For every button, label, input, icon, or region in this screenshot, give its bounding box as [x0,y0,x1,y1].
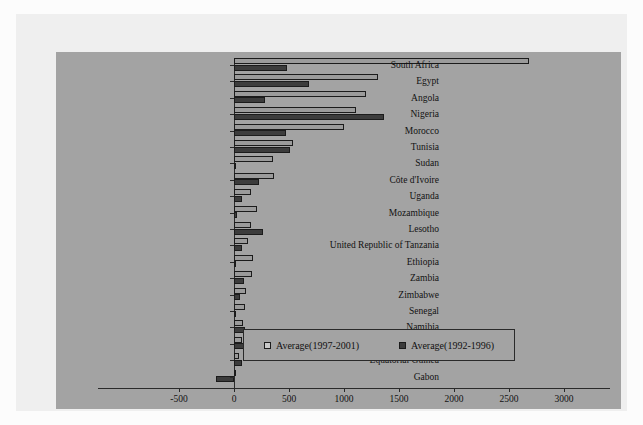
bar-series1 [234,124,344,130]
category-label: Gabon [414,372,439,382]
x-axis-tick [289,388,290,392]
x-axis-tick [399,388,400,392]
y-axis-tick [230,147,234,148]
chart-legend: Average(1997-2001) Average(1992-1996) [243,329,515,361]
bar-series1 [234,353,239,359]
plot-area: South AfricaEgyptAngolaNigeriaMoroccoTun… [56,52,621,409]
category-label: Senegal [409,306,439,316]
x-axis-tick [234,388,235,392]
legend-item-average-1992-1996: Average(1992-1996) [399,340,494,351]
bar-series1 [234,288,246,294]
category-label: Zambia [410,273,439,283]
bar-series1 [234,370,236,376]
y-axis-tick [230,229,234,230]
legend-label-2: Average(1992-1996) [411,340,494,351]
category-label: Lesotho [408,224,439,234]
y-axis-tick [230,65,234,66]
bar-series2 [234,261,236,267]
bar-series1 [234,173,274,179]
bar-series2 [234,163,236,169]
bar-series2 [234,196,242,202]
y-axis-tick [230,131,234,132]
bar-chart: South AfricaEgyptAngolaNigeriaMoroccoTun… [56,52,621,409]
category-label: Mozambique [389,208,439,218]
bar-series2 [234,360,242,366]
bar-series2 [234,81,309,87]
bar-series1 [234,222,251,228]
bar-series1 [234,74,378,80]
bar-series1 [234,189,251,195]
x-axis-tick-label: 500 [282,394,296,404]
bar-series1 [234,156,273,162]
x-axis-tick-label: 1500 [390,394,409,404]
category-label: Egypt [416,76,439,86]
bar-series1 [234,107,356,113]
bar-series2 [234,229,263,235]
bar-series1 [234,58,529,64]
category-label: Uganda [409,191,439,201]
y-axis-tick [230,278,234,279]
y-axis-tick [230,344,234,345]
bar-series1 [234,320,243,326]
y-axis-tick [230,311,234,312]
y-axis-tick [230,213,234,214]
bar-series2 [234,65,287,71]
bar-series2 [234,179,259,185]
y-axis-tick [230,81,234,82]
bar-series2 [234,278,244,284]
bar-series1 [234,140,293,146]
category-label: United Republic of Tanzania [330,240,439,250]
y-axis-tick [230,196,234,197]
bar-series2 [234,114,384,120]
bar-series1 [234,337,242,343]
legend-label-1: Average(1997-2001) [276,340,359,351]
category-label: Nigeria [411,109,440,119]
category-label: Ethiopia [407,257,439,267]
category-label: Tunisia [411,142,439,152]
y-axis-tick [230,262,234,263]
x-axis-tick [454,388,455,392]
y-axis-tick [230,163,234,164]
bar-series2 [234,212,237,218]
y-axis-tick [230,327,234,328]
category-label: Angola [411,93,439,103]
category-label: Morocco [405,126,439,136]
bar-series2 [234,130,286,136]
chart-mat: South AfricaEgyptAngolaNigeriaMoroccoTun… [16,14,627,411]
category-label: Sudan [415,158,439,168]
bar-series2 [234,245,242,251]
bar-series2 [234,97,265,103]
y-axis-tick [230,245,234,246]
x-axis-tick [344,388,345,392]
bar-series2 [234,294,240,300]
x-axis-tick [509,388,510,392]
bar-series1 [234,206,257,212]
page-background: South AfricaEgyptAngolaNigeriaMoroccoTun… [0,0,643,425]
x-axis-tick-label: 3000 [555,394,574,404]
bar-series1 [234,271,252,277]
legend-swatch-icon-dark [399,342,406,349]
x-axis-tick-label: 2000 [445,394,464,404]
bar-series1 [234,91,366,97]
y-axis-tick [230,360,234,361]
y-axis-tick [230,377,234,378]
x-axis-tick-label: -500 [170,394,187,404]
x-axis-tick-label: 1000 [335,394,354,404]
category-label: Côte d'Ivoire [390,175,439,185]
bar-series1 [234,304,245,310]
bar-series1 [234,238,248,244]
y-axis-tick [230,114,234,115]
legend-item-average-1997-2001: Average(1997-2001) [264,340,359,351]
y-axis-tick [230,295,234,296]
bar-series2 [234,147,290,153]
y-axis-tick [230,98,234,99]
x-axis-tick-label: 0 [232,394,237,404]
x-axis-tick [564,388,565,392]
y-axis-tick [230,180,234,181]
category-label: Zimbabwe [398,290,439,300]
legend-swatch-icon-light [264,342,271,349]
bar-series1 [234,255,253,261]
bar-series2 [234,311,236,317]
x-axis [98,388,610,389]
x-axis-tick [179,388,180,392]
